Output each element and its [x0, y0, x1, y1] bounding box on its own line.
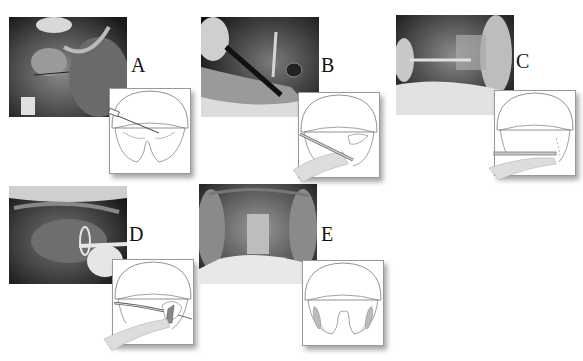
diagram-panel-a	[109, 88, 191, 174]
panel-label-a: A	[131, 55, 145, 75]
panel-label-b: B	[321, 55, 334, 75]
diagram-panel-b	[298, 92, 380, 178]
panel-label-c: C	[516, 51, 529, 71]
panel-label-e: E	[321, 224, 333, 244]
photo-panel-d	[9, 186, 127, 286]
photo-panel-e	[199, 184, 317, 284]
panel-label-d: D	[129, 224, 143, 244]
diagram-panel-e	[302, 260, 384, 346]
diagram-panel-c	[494, 90, 576, 176]
diagram-panel-d	[112, 259, 194, 345]
